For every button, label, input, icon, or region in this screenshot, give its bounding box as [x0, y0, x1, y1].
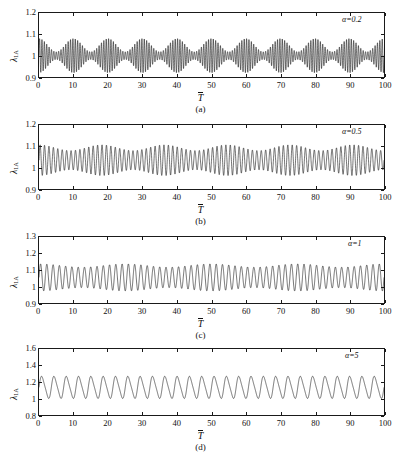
- y-tickmark: [381, 416, 384, 417]
- xtick-label: 50: [198, 307, 226, 316]
- x-tickmark: [107, 186, 108, 189]
- xtick-label: 30: [128, 193, 156, 202]
- x-tickmark: [142, 237, 143, 240]
- y-tickmark: [39, 382, 42, 383]
- y-tickmark: [381, 236, 384, 237]
- xtick-label: 30: [128, 419, 156, 428]
- x-tickmark: [73, 412, 74, 415]
- x-tickmark: [281, 349, 282, 352]
- x-tickmark: [73, 74, 74, 77]
- ytick-label: 1.2: [12, 378, 36, 387]
- y-tickmark: [381, 348, 384, 349]
- x-tickmark: [212, 237, 213, 240]
- y-tickmark: [381, 382, 384, 383]
- xtick-label: 30: [128, 307, 156, 316]
- xtick-label: 0: [24, 307, 52, 316]
- y-tickmark: [381, 365, 384, 366]
- xtick-label: 80: [302, 307, 330, 316]
- x-tickmark: [385, 349, 386, 352]
- x-tickmark: [316, 349, 317, 352]
- x-tickmark: [281, 125, 282, 128]
- y-tickmark: [381, 124, 384, 125]
- x-tickmark: [177, 13, 178, 16]
- x-tickmark: [385, 125, 386, 128]
- x-tickmark: [246, 412, 247, 415]
- ytick-label: 1: [12, 164, 36, 173]
- x-tickmark: [142, 13, 143, 16]
- x-tickmark: [73, 349, 74, 352]
- x-tickmark: [316, 300, 317, 303]
- x-tickmark: [316, 412, 317, 415]
- x-tickmark: [73, 300, 74, 303]
- y-tickmark: [381, 253, 384, 254]
- xtick-label: 60: [232, 81, 260, 90]
- x-tickmark: [350, 349, 351, 352]
- xtick-label: 20: [93, 81, 121, 90]
- xtick-label: 10: [59, 419, 87, 428]
- x-tickmark: [212, 412, 213, 415]
- x-tickmark: [142, 125, 143, 128]
- x-tickmark: [212, 349, 213, 352]
- y-tickmark: [381, 56, 384, 57]
- xtick-label: 80: [302, 419, 330, 428]
- x-tickmark: [177, 237, 178, 240]
- xtick-label: 20: [93, 419, 121, 428]
- x-tickmark: [177, 125, 178, 128]
- ytick-label: 1.3: [12, 232, 36, 241]
- xtick-label: 80: [302, 193, 330, 202]
- x-tickmark: [281, 74, 282, 77]
- x-tickmark: [38, 349, 39, 352]
- x-tickmark: [246, 13, 247, 16]
- xtick-label: 50: [198, 193, 226, 202]
- x-tickmark: [246, 300, 247, 303]
- y-tickmark: [39, 270, 42, 271]
- x-tickmark: [142, 74, 143, 77]
- x-tickmark: [212, 300, 213, 303]
- ytick-label: 1: [12, 283, 36, 292]
- y-tickmark: [39, 416, 42, 417]
- ytick-label: 1.2: [12, 120, 36, 129]
- y-tickmark: [381, 12, 384, 13]
- y-tickmark: [39, 78, 42, 79]
- x-tickmark: [177, 349, 178, 352]
- x-tickmark: [246, 74, 247, 77]
- x-axis-label-d: T: [0, 430, 401, 442]
- x-tickmark: [212, 13, 213, 16]
- x-tickmark: [107, 125, 108, 128]
- x-tickmark: [350, 300, 351, 303]
- y-tickmark: [381, 304, 384, 305]
- xtick-label: 50: [198, 419, 226, 428]
- y-tickmark: [39, 56, 42, 57]
- xtick-label: 40: [163, 193, 191, 202]
- xtick-label: 10: [59, 193, 87, 202]
- x-tickmark: [350, 74, 351, 77]
- xtick-label: 90: [336, 193, 364, 202]
- panel-c: λ1A 1.3 1.2 1.1 1 0.9 α=1 01020304050607…: [0, 224, 401, 336]
- ytick-label: 1.1: [12, 266, 36, 275]
- xtick-label: 70: [267, 307, 295, 316]
- x-tickmark: [73, 186, 74, 189]
- xtick-label: 60: [232, 419, 260, 428]
- waveform-a: [39, 13, 384, 77]
- x-tickmark: [246, 125, 247, 128]
- x-tickmark: [350, 13, 351, 16]
- x-tickmark: [212, 125, 213, 128]
- xtick-label: 50: [198, 81, 226, 90]
- x-tickmark: [177, 186, 178, 189]
- x-tickmark: [212, 186, 213, 189]
- x-tickmark: [385, 300, 386, 303]
- y-tickmark: [381, 168, 384, 169]
- x-tickmark: [316, 125, 317, 128]
- xtick-label: 30: [128, 81, 156, 90]
- xtick-label: 100: [371, 81, 399, 90]
- x-tickmark: [316, 186, 317, 189]
- x-tickmark: [316, 237, 317, 240]
- x-tickmark: [107, 349, 108, 352]
- x-tickmark: [212, 74, 213, 77]
- y-tickmark: [39, 168, 42, 169]
- annotation-alpha-b: α=0.5: [342, 127, 362, 136]
- x-tickmark: [107, 412, 108, 415]
- x-tickmark: [281, 300, 282, 303]
- x-tickmark: [385, 74, 386, 77]
